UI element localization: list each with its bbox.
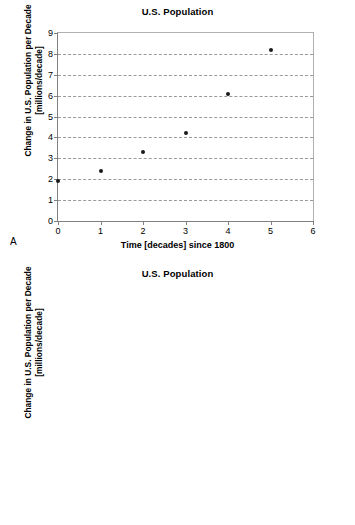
y-axis-label-a-line1: Change in U.S. Population per Decade [23, 0, 34, 176]
y-tick-label: 1 [48, 195, 53, 205]
chart-title-a: U.S. Population [0, 6, 355, 17]
x-tick-label: 3 [183, 226, 188, 236]
chart-title-b: U.S. Population [0, 268, 355, 279]
gridline-y [58, 75, 313, 76]
figure-panel-a: U.S. Population Change in U.S. Populatio… [0, 0, 355, 263]
y-tick-mark [54, 75, 58, 76]
x-tick-label: 2 [140, 226, 145, 236]
gridline-y [58, 200, 313, 201]
gridline-y [58, 96, 313, 97]
y-tick-mark [54, 33, 58, 34]
gridline-y [58, 137, 313, 138]
panel-letter-a: A [10, 236, 17, 247]
y-tick-label: 5 [48, 112, 53, 122]
gridline-y [58, 117, 313, 118]
y-tick-label: 0 [48, 216, 53, 226]
x-tick-mark [271, 221, 272, 225]
x-tick-label: 1 [98, 226, 103, 236]
data-point [269, 48, 273, 52]
x-tick-mark [186, 221, 187, 225]
y-tick-mark [54, 96, 58, 97]
y-tick-label: 6 [48, 91, 53, 101]
y-tick-mark [54, 54, 58, 55]
x-tick-label: 6 [310, 226, 315, 236]
y-tick-mark [54, 158, 58, 159]
gridline-y [58, 54, 313, 55]
plot-area-a: 01234567890123456 [57, 32, 314, 222]
y-tick-label: 4 [48, 132, 53, 142]
gridline-y [58, 179, 313, 180]
data-point [56, 179, 60, 183]
data-point [226, 92, 230, 96]
x-tick-label: 5 [268, 226, 273, 236]
y-axis-label-a-line2: [millions/decade] [33, 0, 44, 176]
y-tick-label: 9 [48, 28, 53, 38]
x-tick-label: 0 [55, 226, 60, 236]
y-axis-label-b: Change in U.S. Population per Decade [mi… [23, 248, 44, 438]
x-tick-mark [228, 221, 229, 225]
y-tick-label: 2 [48, 174, 53, 184]
data-point [99, 169, 103, 173]
figure-panel-b: U.S. Population Change in U.S. Populatio… [0, 262, 355, 525]
x-tick-mark [143, 221, 144, 225]
x-axis-label-a: Time [decades] since 1800 [0, 240, 355, 250]
x-tick-mark [101, 221, 102, 225]
y-tick-mark [54, 137, 58, 138]
y-axis-label-a: Change in U.S. Population per Decade [mi… [23, 0, 44, 176]
y-tick-label: 7 [48, 70, 53, 80]
y-tick-mark [54, 117, 58, 118]
y-tick-mark [54, 200, 58, 201]
x-tick-label: 4 [225, 226, 230, 236]
y-tick-label: 3 [48, 153, 53, 163]
data-point [184, 131, 188, 135]
y-axis-label-b-line1: Change in U.S. Population per Decade [23, 248, 34, 438]
data-point [141, 150, 145, 154]
y-axis-label-b-line2: [millions/decade] [33, 248, 44, 438]
gridline-y [58, 158, 313, 159]
x-tick-mark [313, 221, 314, 225]
x-tick-mark [58, 221, 59, 225]
y-tick-label: 8 [48, 49, 53, 59]
